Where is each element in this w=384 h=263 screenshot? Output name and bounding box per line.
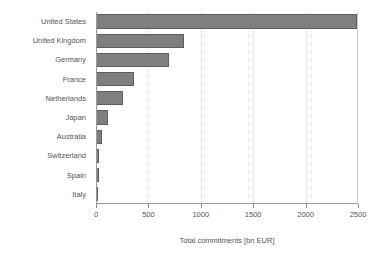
x-axis-tick-label: 1000 [192,210,209,219]
bar[interactable] [96,168,99,182]
bar[interactable] [96,149,99,163]
x-axis-tick-label: 2500 [350,210,367,219]
bar[interactable] [96,72,134,86]
bar[interactable] [96,110,108,124]
x-axis-tick-mark [96,204,97,208]
bar[interactable] [96,130,102,144]
bar[interactable] [96,53,169,67]
y-axis-label: United Kingdom [33,31,86,50]
x-axis-tick-label: 1500 [245,210,262,219]
y-axis-label: Spain [67,166,86,185]
bar-chart: United StatesUnited KingdomGermanyFrance… [0,0,384,263]
y-axis-label: Switzerland [47,146,86,165]
x-axis-tick-label: 500 [142,210,155,219]
x-axis-tick-mark [148,204,149,208]
y-axis-label: Japan [66,108,86,127]
y-axis-label: Germany [55,50,86,69]
bar[interactable] [96,14,357,28]
y-axis-category-labels: United StatesUnited KingdomGermanyFrance… [0,12,92,204]
bar[interactable] [96,34,184,48]
x-axis-tick-mark [253,204,254,208]
y-axis-label: Italy [72,185,86,204]
y-axis-label: Netherlands [46,89,86,108]
x-axis-tick-mark [201,204,202,208]
bar[interactable] [96,187,98,201]
x-axis-tick-label: 0 [94,210,98,219]
plot-area: 05001000150020002500 [96,12,358,204]
x-axis-tick-label: 2000 [297,210,314,219]
x-axis-tick-mark [306,204,307,208]
y-axis-label: Australia [57,127,86,146]
x-axis-tick-mark [358,204,359,208]
y-axis-label: France [63,70,86,89]
x-axis-title: Total commitments [bn EUR] [96,236,358,245]
bars-layer [96,12,358,204]
y-axis-label: United States [41,12,86,31]
bar[interactable] [96,91,123,105]
